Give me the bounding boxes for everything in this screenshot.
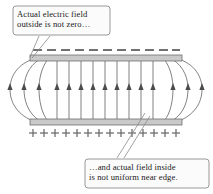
outside-field-callout-text: Actual electric field outside is not zer… — [17, 10, 90, 30]
callout-line-2: is not uniform near edge. — [89, 173, 178, 183]
plus-sign — [29, 129, 37, 137]
plus-sign — [128, 129, 136, 137]
plus-sign — [139, 129, 147, 137]
plus-sign — [117, 129, 125, 137]
field-arrow-up — [90, 83, 95, 90]
field-arrow-up — [170, 83, 175, 90]
plus-sign — [150, 129, 158, 137]
field-arrow-up — [185, 83, 190, 90]
field-arrow-up — [138, 83, 143, 90]
leader-line — [30, 36, 39, 57]
plus-sign — [51, 129, 59, 137]
capacitor-fringing-field-figure: Actual electric field outside is not zer… — [0, 0, 213, 194]
field-arrow-up — [199, 83, 204, 90]
inside-field-callout-text: …and actual field inside is not uniform … — [89, 163, 178, 183]
field-arrow-up — [114, 83, 119, 90]
field-arrow-up — [7, 83, 12, 90]
fringe-field-lines-right — [164, 59, 202, 121]
field-arrow-up — [102, 83, 107, 90]
plus-sign — [161, 129, 169, 137]
positive-charge-signs — [29, 129, 180, 137]
field-arrow-up — [36, 83, 41, 90]
plus-sign — [172, 129, 180, 137]
field-arrow-up — [54, 83, 59, 90]
field-arrow-up — [150, 83, 155, 90]
field-arrow-up — [66, 83, 71, 90]
field-arrow-up — [78, 83, 83, 90]
field-arrow-up — [21, 83, 26, 90]
plus-sign — [62, 129, 70, 137]
negative-plate — [30, 55, 182, 61]
positive-plate — [30, 119, 182, 125]
field-direction-arrowheads — [7, 83, 204, 90]
plus-sign — [84, 129, 92, 137]
field-arrow-up — [126, 83, 131, 90]
plus-sign — [73, 129, 81, 137]
fringe-field-lines-left — [10, 59, 48, 121]
plus-sign — [40, 129, 48, 137]
plus-sign — [95, 129, 103, 137]
plus-sign — [106, 129, 114, 137]
callout-line-2: outside is not zero… — [17, 20, 90, 30]
